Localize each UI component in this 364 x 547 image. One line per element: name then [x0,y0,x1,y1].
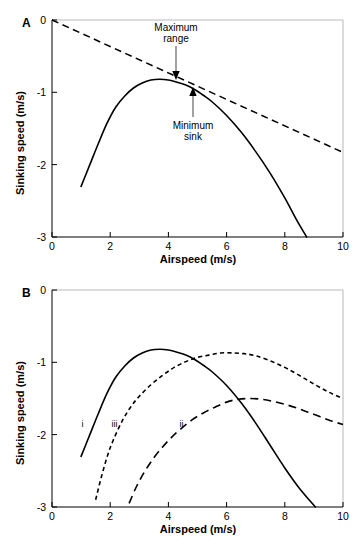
figure-glide-polars: A Sinking speed (m/s) Airspeed (m/s) 0 -… [0,0,364,547]
panel-b-xtick-6: 6 [224,510,230,522]
panel-b-xtick-4: 4 [165,510,171,522]
curve-label-iii: iii [112,419,118,429]
panel-b-xtick-10: 10 [337,510,349,522]
annotation-minimum-sink: Minimum sink [173,87,214,142]
panel-b-ytick-minus1: -1 [37,356,46,368]
panel-b-xtick-0: 0 [49,510,55,522]
curve-iii [96,353,343,500]
panel-b-xtick-8: 8 [282,510,288,522]
maximum-range-label-line1: Maximum [154,22,197,33]
panel-a-xtick-10: 10 [337,240,349,252]
panel-a-xtick-0: 0 [49,240,55,252]
panel-a-xtick-4: 4 [165,240,171,252]
panel-b-plot: 0 -1 -2 -3 0 2 4 6 8 10 i iii ii [0,272,364,547]
curve-label-ii: ii [180,419,184,429]
curve-label-i: i [82,419,84,429]
panel-b-ytick-0: 0 [40,284,46,296]
panel-a-ytick-minus3: -3 [37,231,46,243]
panel-a-x-ticks [52,232,343,237]
panel-a-ytick-minus1: -1 [37,86,46,98]
annotation-maximum-range: Maximum range [154,22,197,80]
maximum-range-label-line2: range [163,33,189,44]
minimum-sink-label-line1: Minimum [173,120,214,131]
minimum-sink-arrow-icon [189,87,196,96]
panel-b-frame [52,290,343,507]
panel-a: A Sinking speed (m/s) Airspeed (m/s) 0 -… [0,0,364,272]
panel-b-xtick-2: 2 [107,510,113,522]
panel-b-ytick-minus3: -3 [37,501,46,513]
panel-a-ytick-0: 0 [40,14,46,26]
panel-a-y-ticks [52,20,57,237]
panel-a-plot: 0 -1 -2 -3 0 2 4 6 8 10 M [0,0,364,272]
panel-a-ytick-minus2: -2 [37,159,46,171]
minimum-sink-label-line2: sink [184,131,203,142]
panel-a-xtick-6: 6 [224,240,230,252]
panel-b-ytick-minus2: -2 [37,429,46,441]
curve-glide-polar [81,79,307,237]
panel-b-y-ticks [52,290,57,507]
panel-a-xtick-8: 8 [282,240,288,252]
curve-ii [129,399,343,504]
panel-b: B Sinking speed (m/s) Airspeed (m/s) 0 -… [0,272,364,547]
panel-b-x-ticks [52,502,343,507]
panel-a-xtick-2: 2 [107,240,113,252]
